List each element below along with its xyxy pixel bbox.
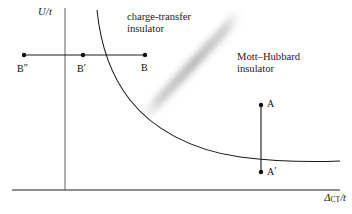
region-label-charge-transfer-line1: charge-transfer [127,11,191,23]
point-B-double-prime [22,53,26,57]
x-axis-label-rest: /t [340,192,346,203]
point-label-B-double-prime: B″ [17,62,28,75]
region-label-mott-hubbard: Mott–Hubbard insulator [237,51,300,75]
x-axis-label-subscript: CT [331,195,341,204]
y-axis-label: U/t [38,6,52,18]
segment-A [259,103,263,174]
point-B-prime [81,53,85,57]
region-label-mott-hubbard-line1: Mott–Hubbard [237,51,300,63]
segment-B [22,53,147,57]
point-label-B-prime-mark: ′ [84,62,86,73]
point-label-A: A [267,98,274,109]
phase-diagram-figure: U/t ΔCT/t charge-transfer insulator Mott… [0,0,352,214]
point-A-prime [259,170,263,174]
point-label-B-prime: B′ [77,62,86,75]
point-label-B: B [141,62,148,73]
point-label-B-double-prime-mark: ″ [24,62,28,73]
point-label-A-prime-mark: ′ [274,165,276,176]
point-label-A-prime: A′ [267,165,276,178]
region-label-charge-transfer: charge-transfer insulator [127,11,191,35]
region-label-mott-hubbard-line2: insulator [237,63,300,75]
x-axis-label: ΔCT/t [324,192,346,205]
point-A [259,103,263,107]
point-label-B-double-prime-base: B [17,63,24,74]
point-label-B-prime-base: B [77,63,84,74]
point-B [143,53,147,57]
region-label-charge-transfer-line2: insulator [127,23,191,35]
